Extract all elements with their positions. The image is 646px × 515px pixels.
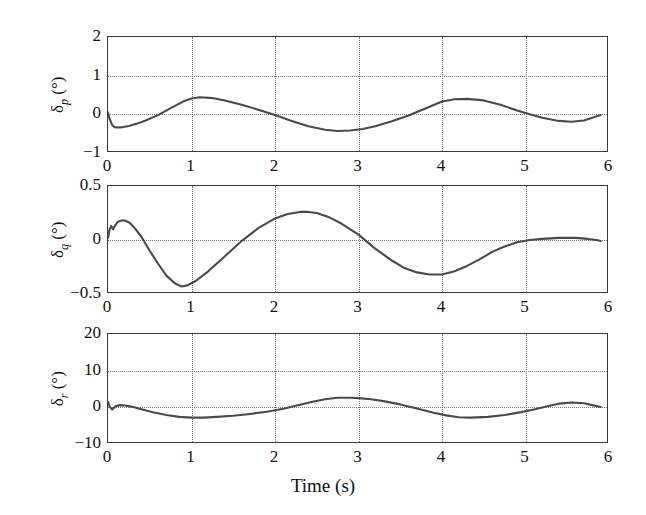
x-tick-label: 3 (338, 157, 378, 174)
y-tick-label: 0.5 (59, 176, 101, 193)
y-tick-label: 20 (59, 324, 101, 341)
x-tick-label: 3 (338, 448, 378, 465)
data-curve-r (108, 334, 608, 443)
x-tick-label: 5 (505, 298, 545, 315)
y-tick-label: 1 (59, 66, 101, 83)
y-axis-label-delta-p: δp (°) (48, 40, 71, 150)
x-tick-label: 5 (505, 448, 545, 465)
y-tick-label: 10 (59, 361, 101, 378)
x-tick-label: 6 (588, 157, 628, 174)
y-tick-label: 0 (59, 230, 101, 247)
x-tick-label: 1 (171, 298, 211, 315)
x-tick-label: 3 (338, 298, 378, 315)
x-tick-label: 0 (87, 448, 127, 465)
x-tick-label: 0 (87, 298, 127, 315)
x-tick-label: 1 (171, 157, 211, 174)
x-tick-label: 0 (87, 157, 127, 174)
x-axis-label: Time (s) (0, 475, 646, 497)
data-curve-q (108, 186, 608, 293)
x-tick-label: 6 (588, 448, 628, 465)
y-tick-label: 2 (59, 27, 101, 44)
x-tick-label: 1 (171, 448, 211, 465)
x-tick-label: 2 (254, 298, 294, 315)
plot-area-delta-r (107, 333, 608, 443)
x-tick-label: 6 (588, 298, 628, 315)
plot-area-delta-q (107, 185, 608, 293)
x-tick-label: 4 (421, 448, 461, 465)
x-tick-label: 5 (505, 157, 545, 174)
y-tick-label: 0 (59, 104, 101, 121)
x-tick-label: 4 (421, 157, 461, 174)
x-tick-label: 4 (421, 298, 461, 315)
figure-container: δp (°) δq (°) δr (°) Time (s) −101201234… (0, 0, 646, 515)
data-curve-p (108, 37, 608, 152)
plot-area-delta-p (107, 36, 608, 152)
y-tick-label: 0 (59, 397, 101, 414)
x-tick-label: 2 (254, 157, 294, 174)
y-axis-label-delta-r: δr (°) (48, 334, 71, 444)
x-tick-label: 2 (254, 448, 294, 465)
